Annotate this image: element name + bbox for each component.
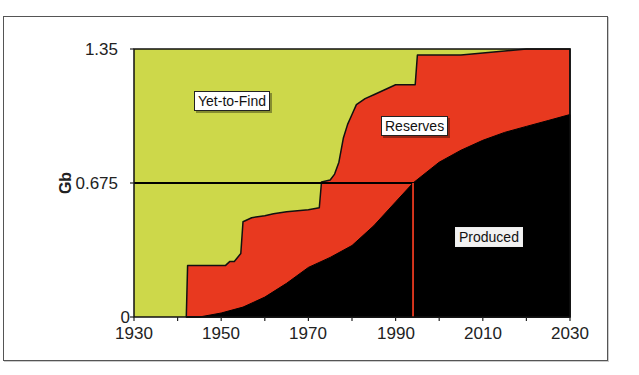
y-axis-title: Gb: [57, 172, 74, 194]
reserves-label: Reserves: [381, 116, 448, 136]
yet-to-find-label: Yet-to-Find: [194, 91, 270, 111]
x-tick-label-1950: 1950: [202, 324, 240, 343]
chart-canvas: 1.35 0.675 0 1930 1950 1970 1990 2010 20…: [0, 0, 639, 375]
plot-areas: [134, 49, 570, 317]
x-tick-label-1930: 1930: [115, 324, 153, 343]
x-tick-label-1970: 1970: [289, 324, 327, 343]
x-tick-label-2010: 2010: [464, 324, 502, 343]
x-tick-label-2030: 2030: [551, 324, 589, 343]
produced-label: Produced: [455, 227, 523, 247]
y-tick-label-top: 1.35: [85, 40, 118, 59]
x-tick-label-1990: 1990: [377, 324, 415, 343]
y-tick-label-mid: 0.675: [75, 174, 118, 193]
